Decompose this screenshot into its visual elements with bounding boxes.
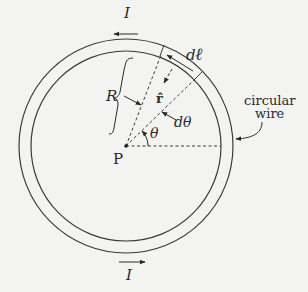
- r-hat-arrow: [164, 69, 172, 83]
- radius-label: R: [106, 89, 117, 104]
- radius-brace-pointer: [124, 96, 141, 105]
- line-element-label: dℓ: [186, 46, 203, 63]
- line-element-l: ℓ: [196, 44, 203, 64]
- unit-vector-label: r̂: [156, 92, 163, 105]
- theta-arc: [142, 131, 148, 146]
- line-element-d: d: [186, 46, 196, 64]
- theta-label: θ: [150, 126, 158, 140]
- circular-wire-diagram: [0, 0, 308, 292]
- dl-segment-boundary-lower: [194, 71, 203, 80]
- diagram-canvas: I I dℓ R r̂ dθ θ P circular wire: [0, 0, 308, 292]
- point-p-label: P: [113, 152, 123, 167]
- dl-segment-boundary-upper: [160, 45, 164, 56]
- circular-wire-label-line2: wire: [244, 107, 295, 120]
- current-label-top: I: [124, 6, 130, 21]
- wire-label-leader: [236, 122, 262, 139]
- current-label-bottom: I: [126, 268, 132, 283]
- point-p-dot: [124, 144, 128, 148]
- circular-wire-label: circular wire: [244, 94, 295, 120]
- d-theta-label: dθ: [174, 115, 191, 129]
- radial-line-lower: [126, 80, 194, 146]
